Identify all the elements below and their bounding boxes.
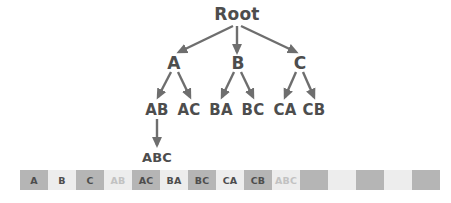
edge-c-ca <box>285 72 296 97</box>
tree-node-ca[interactable]: CA <box>273 101 296 119</box>
tree-node-a[interactable]: A <box>167 53 180 73</box>
edge-a-ac <box>178 72 190 97</box>
sequence-cell-empty[interactable] <box>300 170 328 190</box>
sequence-cell-bc[interactable]: BC <box>188 170 216 190</box>
tree-diagram-canvas: Root A B C AB AC BA BC CA CB ABC ABCABAC… <box>0 0 451 203</box>
sequence-cell-a[interactable]: A <box>20 170 48 190</box>
sequence-cell-b[interactable]: B <box>48 170 76 190</box>
edge-root-c <box>241 26 296 52</box>
tree-node-ba[interactable]: BA <box>209 101 232 119</box>
edge-a-ab <box>158 72 171 97</box>
sequence-cell-cb[interactable]: CB <box>244 170 272 190</box>
sequence-cell-abc[interactable]: ABC <box>272 170 300 190</box>
sequence-cell-c[interactable]: C <box>76 170 104 190</box>
tree-node-cb[interactable]: CB <box>303 101 326 119</box>
edge-b-bc <box>241 72 253 97</box>
sequence-cell-empty[interactable] <box>356 170 384 190</box>
sequence-cell-ab[interactable]: AB <box>104 170 132 190</box>
sequence-cell-empty[interactable] <box>412 170 440 190</box>
edge-c-cb <box>303 72 314 97</box>
tree-node-b[interactable]: B <box>231 53 244 73</box>
tree-node-abc[interactable]: ABC <box>142 150 172 165</box>
sequence-cell-empty[interactable] <box>328 170 356 190</box>
tree-node-ab[interactable]: AB <box>145 101 168 119</box>
tree-node-bc[interactable]: BC <box>242 101 265 119</box>
tree-node-ac[interactable]: AC <box>177 101 200 119</box>
edge-b-ba <box>222 72 234 97</box>
sequence-cell-empty[interactable] <box>384 170 412 190</box>
tree-node-root[interactable]: Root <box>214 4 259 24</box>
edge-root-a <box>179 26 233 52</box>
sequence-bar: ABCABACBABCCACBABC <box>20 170 440 190</box>
sequence-cell-ca[interactable]: CA <box>216 170 244 190</box>
tree-node-c[interactable]: C <box>294 53 307 73</box>
sequence-cell-ba[interactable]: BA <box>160 170 188 190</box>
sequence-cell-ac[interactable]: AC <box>132 170 160 190</box>
